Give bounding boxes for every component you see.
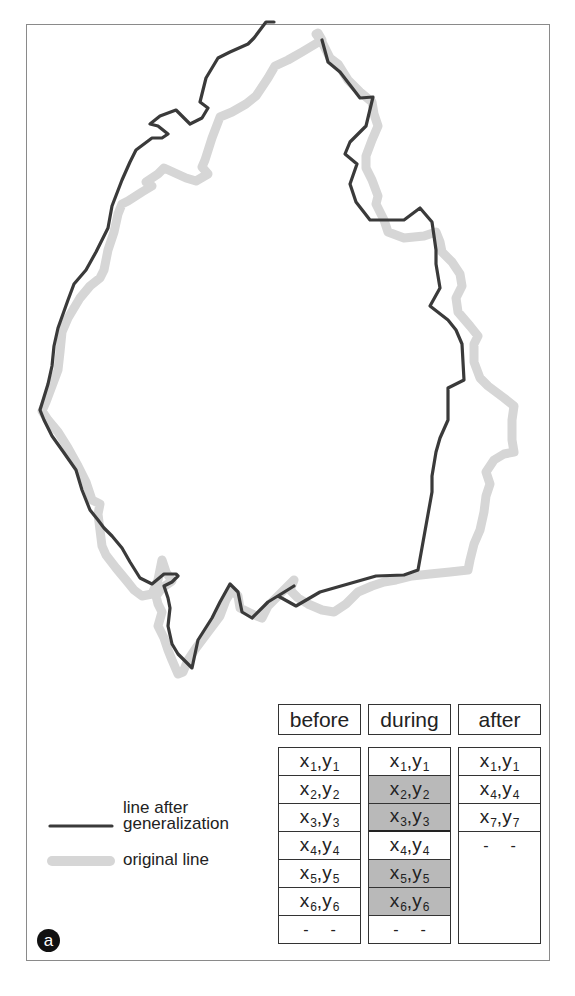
coordinate-cell: x5,y5 (369, 860, 450, 888)
column-header-before: before (278, 704, 361, 735)
legend-original-label: original line (123, 852, 209, 868)
panel-label: a (44, 932, 53, 949)
coordinate-cell: x1,y1 (369, 748, 450, 776)
coordinate-cell: x3,y3 (279, 804, 360, 832)
ellipsis-cell: -- (459, 832, 540, 860)
coordinate-cell: x4,y4 (369, 832, 450, 860)
panel-label-badge: a (37, 929, 60, 952)
legend-generalized-swatch (48, 822, 114, 830)
coordinate-cell: x3,y3 (369, 804, 450, 832)
legend-original-swatch (46, 854, 116, 868)
ellipsis-cell: -- (369, 916, 450, 944)
coordinate-cell: x1,y1 (279, 748, 360, 776)
legend-generalized-label: line after generalization (123, 800, 229, 832)
coordinate-cell: x4,y4 (279, 832, 360, 860)
coordinate-cell: x6,y6 (279, 888, 360, 916)
coordinate-cell: x2,y2 (369, 776, 450, 804)
original-line (42, 33, 514, 674)
legend-generalized-line2: generalization (123, 816, 229, 832)
column-during: x1,y1x2,y2x3,y3x4,y4x5,y5x6,y6-- (368, 747, 451, 944)
ellipsis-cell: -- (279, 916, 360, 944)
column-header-during: during (368, 704, 451, 735)
column-after: x1,y1x4,y4x7,y7-- (458, 747, 541, 944)
generalized-line (40, 22, 464, 668)
coordinate-cell: x6,y6 (369, 888, 450, 916)
coordinate-cell: x5,y5 (279, 860, 360, 888)
coordinate-cell: x4,y4 (459, 776, 540, 804)
column-before: x1,y1x2,y2x3,y3x4,y4x5,y5x6,y6-- (278, 747, 361, 944)
coordinate-cell: x2,y2 (279, 776, 360, 804)
coordinate-cell: x7,y7 (459, 804, 540, 832)
coordinate-cell: x1,y1 (459, 748, 540, 776)
column-header-after: after (458, 704, 541, 735)
